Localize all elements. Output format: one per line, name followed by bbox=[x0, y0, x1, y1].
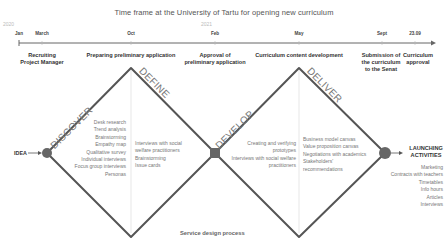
list-item: Trend analysis bbox=[60, 126, 126, 133]
list-item: Desk research bbox=[60, 119, 126, 126]
launch-node bbox=[379, 147, 391, 159]
footer-caption: Service design process bbox=[180, 230, 245, 236]
list-item: Interviews bbox=[370, 201, 443, 208]
launching-title-line2: ACTIVITIES bbox=[404, 152, 448, 159]
year-2021: 2021 bbox=[201, 21, 212, 27]
phase-preparing-application: Preparing preliminary application bbox=[87, 52, 176, 59]
launching-activities-title: LAUNCHING ACTIVITIES bbox=[404, 145, 448, 159]
list-item: Info hours bbox=[370, 186, 443, 193]
deliver-methods-list: Business model canvas Value proposition … bbox=[303, 136, 366, 173]
launching-activities-list: Marketing Contracts with teachers Timeta… bbox=[370, 164, 443, 208]
list-item: Personas bbox=[60, 171, 126, 178]
month-may: May bbox=[295, 31, 304, 36]
phase-approval-preliminary: Approval of preliminary application bbox=[184, 52, 245, 66]
list-item: practitioners bbox=[226, 162, 296, 169]
list-item: Stakeholders' bbox=[303, 158, 366, 165]
list-item: Business model canvas bbox=[303, 136, 366, 143]
month-jan: Jan bbox=[15, 31, 23, 36]
list-item: Brainstorming bbox=[60, 134, 126, 141]
develop-methods-list: Creating and verifying prototypes Interv… bbox=[226, 140, 296, 170]
discover-methods-list: Desk research Trend analysis Brainstormi… bbox=[60, 119, 126, 178]
idea-node bbox=[42, 148, 52, 158]
year-2020: 2020 bbox=[3, 21, 14, 27]
list-item: Value proposition canvas bbox=[303, 143, 366, 150]
list-item: Focus group interviews bbox=[60, 163, 126, 170]
list-item: recommendations bbox=[303, 166, 366, 173]
timeline-arrow-icon bbox=[431, 41, 436, 46]
idea-label: IDEA bbox=[14, 150, 27, 156]
phase-content-development: Curriculum content development bbox=[255, 52, 343, 59]
list-item: Negotiations with academics bbox=[303, 151, 366, 158]
list-item: Qualitative survey bbox=[60, 149, 126, 156]
phase-curriculum-approval: Curriculum approval bbox=[403, 52, 433, 66]
list-item: Brainstorming bbox=[135, 155, 182, 162]
month-2309: 23.09 bbox=[409, 31, 421, 36]
list-item: Issue cards bbox=[135, 162, 182, 169]
month-feb: Feb bbox=[211, 31, 219, 36]
month-oct: Oct bbox=[127, 31, 135, 36]
list-item: prototypes bbox=[226, 147, 296, 154]
list-item: Individual interviews bbox=[60, 156, 126, 163]
list-item: Creating and verifying bbox=[226, 140, 296, 147]
month-march: March bbox=[35, 31, 49, 36]
list-item: Timetables bbox=[370, 179, 443, 186]
timeline-axis bbox=[19, 40, 436, 46]
define-methods-list: Interviews with social welfare practitio… bbox=[135, 140, 182, 170]
develop-node bbox=[210, 148, 220, 158]
phase-recruiting: Recruiting Project Manager bbox=[20, 52, 64, 66]
launching-title-line1: LAUNCHING bbox=[404, 145, 448, 152]
phase-submission: Submission of the curriculum to the Sena… bbox=[362, 52, 401, 73]
list-item: Empathy map bbox=[60, 141, 126, 148]
idea-arrow-head-icon bbox=[38, 151, 42, 155]
list-item: Marketing bbox=[370, 164, 443, 171]
list-item: Contracts with teachers bbox=[370, 171, 443, 178]
month-sept: Sept bbox=[377, 31, 387, 36]
launch-arrow-head-icon bbox=[399, 151, 403, 155]
list-item: welfare practitioners bbox=[135, 147, 182, 154]
list-item: Interviews with social bbox=[135, 140, 182, 147]
list-item: Interviews with social welfare bbox=[226, 155, 296, 162]
list-item: Articles bbox=[370, 194, 443, 201]
